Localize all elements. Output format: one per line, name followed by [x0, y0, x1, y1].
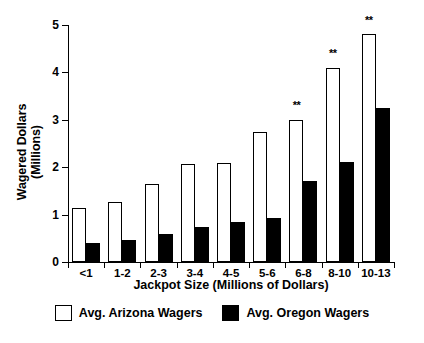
y-axis-title: Wagered Dollars (Millions) — [15, 67, 43, 237]
bar-az-1-2 — [108, 202, 122, 262]
y-tick-label: 3 — [52, 114, 59, 126]
legend-item: Avg. Arizona Wagers — [55, 305, 203, 321]
legend-swatch — [55, 305, 72, 321]
legend-item: Avg. Oregon Wagers — [222, 305, 369, 321]
bar-az-<1 — [72, 208, 86, 262]
bar-or-3-4 — [195, 227, 209, 262]
bar-az-6-8 — [289, 120, 303, 262]
y-tick — [62, 120, 68, 121]
bar-or-10-13 — [376, 108, 390, 262]
x-tick — [394, 262, 395, 268]
y-tick-label: 0 — [52, 256, 59, 268]
bar-or-6-8 — [303, 181, 317, 262]
y-tick-label: 2 — [52, 161, 59, 173]
bar-chart: Wagered Dollars (Millions) 012345 <11-22… — [0, 0, 424, 343]
x-tick — [249, 262, 250, 268]
bar-or-<1 — [86, 243, 100, 262]
significance-marker: ** — [365, 15, 373, 26]
y-tick — [62, 25, 68, 26]
y-tick — [62, 72, 68, 73]
x-tick-label: 8-10 — [328, 268, 351, 280]
bar-az-2-3 — [145, 184, 159, 262]
x-tick — [177, 262, 178, 268]
legend-label: Avg. Arizona Wagers — [79, 307, 203, 320]
bar-az-5-6 — [253, 132, 267, 262]
x-tick — [140, 262, 141, 268]
y-axis-line — [68, 25, 69, 263]
x-tick — [285, 262, 286, 268]
x-tick-label: 10-13 — [361, 268, 390, 280]
x-tick — [68, 262, 69, 268]
bar-or-8-10 — [340, 162, 354, 262]
significance-marker: ** — [329, 48, 337, 59]
y-tick — [62, 167, 68, 168]
legend-swatch — [222, 305, 239, 321]
bar-or-5-6 — [267, 218, 281, 262]
bar-az-10-13 — [362, 34, 376, 262]
plot-area: 012345 <11-22-33-44-55-66-88-1010-13 ***… — [68, 25, 394, 262]
x-tick-label: 1-2 — [114, 268, 131, 280]
significance-marker: ** — [293, 100, 301, 111]
x-axis-line — [68, 262, 395, 263]
x-tick — [213, 262, 214, 268]
x-axis-title: Jackpot Size (Millions of Dollars) — [68, 279, 394, 292]
bar-az-3-4 — [181, 164, 195, 262]
x-tick — [104, 262, 105, 268]
bar-or-4-5 — [231, 222, 245, 262]
x-tick — [358, 262, 359, 268]
legend-label: Avg. Oregon Wagers — [246, 307, 369, 320]
x-tick — [322, 262, 323, 268]
bar-az-4-5 — [217, 163, 231, 262]
bar-or-1-2 — [122, 240, 136, 262]
x-tick-label: <1 — [80, 268, 93, 280]
y-tick-label: 4 — [52, 66, 59, 78]
y-tick-label: 5 — [52, 19, 59, 31]
bar-az-8-10 — [326, 68, 340, 262]
chart-legend: Avg. Arizona WagersAvg. Oregon Wagers — [0, 305, 424, 321]
y-tick — [62, 215, 68, 216]
y-tick-label: 1 — [52, 209, 59, 221]
bar-or-2-3 — [159, 234, 173, 262]
